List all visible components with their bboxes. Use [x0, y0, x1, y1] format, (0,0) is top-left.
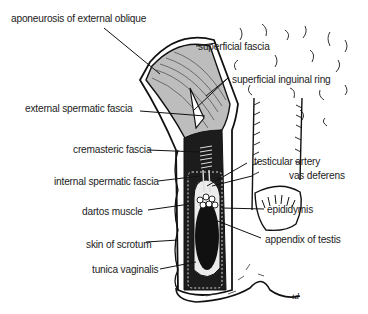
label-internal-spermatic-fascia: internal spermatic fascia — [54, 175, 159, 188]
label-testicular-artery: testicular artery — [254, 155, 320, 168]
label-appendix-of-testis: appendix of testis — [265, 233, 341, 246]
artist-signature: td — [292, 291, 300, 301]
label-vas-deferens: vas deferens — [289, 169, 345, 182]
label-superficial-fascia: superficial fascia — [198, 40, 270, 53]
label-external-spermatic-fascia: external spermatic fascia — [25, 102, 133, 115]
anatomy-diagram: td aponeurosis of external oblique super… — [0, 0, 368, 314]
label-epididymis: epididymis — [267, 203, 313, 216]
label-dartos-muscle: dartos muscle — [82, 205, 143, 218]
label-tunica-vaginalis: tunica vaginalis — [92, 263, 158, 276]
label-cremasteric-fascia: cremasteric fascia — [73, 143, 151, 156]
label-skin-of-scrotum: skin of scrotum — [86, 238, 151, 251]
label-aponeurosis: aponeurosis of external oblique — [11, 12, 146, 25]
testis — [195, 202, 219, 270]
label-superficial-inguinal-ring: superficial inguinal ring — [232, 73, 331, 86]
